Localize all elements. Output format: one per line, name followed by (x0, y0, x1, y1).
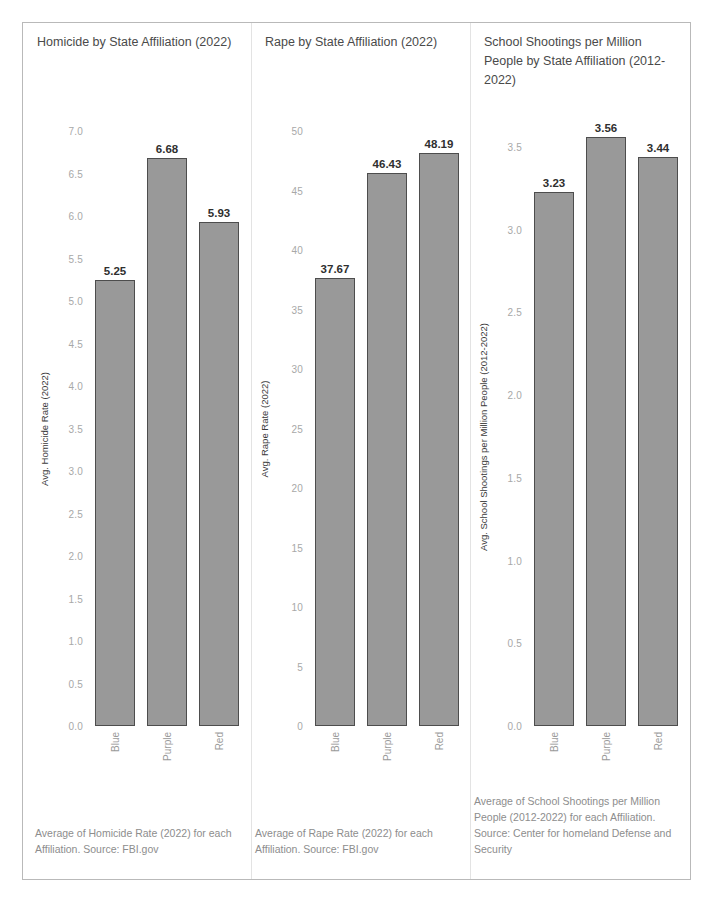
y-axis-title-homicide: Avg. Homicide Rate (2022) (35, 91, 53, 766)
y-tick-label: 1.5 (507, 472, 522, 483)
bar-group: 46.43Purple (367, 91, 407, 766)
y-tick-label: 40 (291, 245, 303, 256)
y-tick-label: 10 (291, 602, 303, 613)
footnote-school-shootings: Average of School Shootings per Million … (474, 793, 684, 857)
y-tick-label: 3.5 (68, 423, 83, 434)
footnote-homicide: Average of Homicide Rate (2022) for each… (35, 825, 241, 857)
x-category-label: Purple (387, 732, 416, 743)
y-axis-ticks-school-shootings: 0.00.51.01.52.02.53.03.5 (492, 107, 526, 766)
plot-area-homicide: Avg. Homicide Rate (2022) 0.00.51.01.52.… (35, 91, 247, 766)
x-category-label: Blue (335, 732, 355, 743)
bar-blue[interactable] (315, 278, 355, 726)
y-tick-label: 2.0 (68, 551, 83, 562)
x-category-label: Purple (606, 732, 635, 743)
y-tick-label: 35 (291, 304, 303, 315)
chart-title-rape: Rape by State Affiliation (2022) (265, 33, 465, 52)
y-tick-label: 4.5 (68, 338, 83, 349)
bar-red[interactable] (199, 222, 239, 726)
bar-red[interactable] (638, 157, 678, 726)
y-axis-title-text: Avg. School Shootings per Million People… (478, 323, 489, 551)
bar-group: 5.25Blue (95, 91, 135, 766)
chart-panel-rape: Rape by State Affiliation (2022) Avg. Ra… (251, 23, 470, 879)
footnote-rape: Average of Rape Rate (2022) for each Aff… (255, 825, 461, 857)
bar-blue[interactable] (534, 192, 574, 726)
x-category-label: Red (439, 732, 457, 743)
bar-value-label: 5.25 (104, 265, 126, 277)
y-tick-label: 45 (291, 185, 303, 196)
y-tick-label: 3.5 (507, 142, 522, 153)
bar-value-label: 37.67 (321, 263, 350, 275)
y-tick-label: 7.0 (68, 126, 83, 137)
y-tick-label: 0.0 (507, 721, 522, 732)
x-category-label: Blue (554, 732, 574, 743)
bar-group: 5.93Red (199, 91, 239, 766)
y-tick-label: 1.0 (507, 555, 522, 566)
chart-panel-school-shootings: School Shootings per Million People by S… (470, 23, 690, 879)
bar-group: 48.19Red (419, 91, 459, 766)
bar-group: 3.44Red (638, 107, 678, 766)
bars-homicide: 5.25Blue6.68Purple5.93Red (89, 91, 245, 766)
bar-value-label: 3.44 (647, 142, 669, 154)
y-tick-label: 3.0 (507, 224, 522, 235)
y-axis-title-text: Avg. Rape Rate (2022) (259, 380, 270, 477)
chart-title-homicide: Homicide by State Affiliation (2022) (37, 33, 237, 52)
y-tick-label: 50 (291, 126, 303, 137)
y-tick-label: 0.5 (68, 678, 83, 689)
y-tick-label: 0.5 (507, 638, 522, 649)
y-tick-label: 0 (297, 721, 303, 732)
bar-group: 37.67Blue (315, 91, 355, 766)
y-tick-label: 20 (291, 483, 303, 494)
bar-value-label: 6.68 (156, 143, 178, 155)
bars-rape: 37.67Blue46.43Purple48.19Red (309, 91, 465, 766)
bar-value-label: 48.19 (425, 138, 454, 150)
y-tick-label: 0.0 (68, 721, 83, 732)
bar-group: 3.56Purple (586, 107, 626, 766)
bar-purple[interactable] (367, 173, 407, 726)
y-tick-label: 25 (291, 423, 303, 434)
bars-school-shootings: 3.23Blue3.56Purple3.44Red (528, 107, 684, 766)
y-tick-label: 6.0 (68, 211, 83, 222)
y-axis-title-text: Avg. Homicide Rate (2022) (39, 372, 50, 486)
bar-group: 3.23Blue (534, 107, 574, 766)
y-tick-label: 30 (291, 364, 303, 375)
y-tick-label: 1.0 (68, 636, 83, 647)
y-tick-label: 6.5 (68, 168, 83, 179)
y-tick-label: 5 (297, 661, 303, 672)
y-tick-label: 3.0 (68, 466, 83, 477)
x-category-label: Red (219, 732, 237, 743)
y-tick-label: 2.5 (68, 508, 83, 519)
chart-title-school-shootings: School Shootings per Million People by S… (484, 33, 679, 90)
y-tick-label: 5.0 (68, 296, 83, 307)
x-category-label: Red (658, 732, 676, 743)
bar-value-label: 46.43 (373, 158, 402, 170)
y-axis-ticks-homicide: 0.00.51.01.52.02.53.03.54.04.55.05.56.06… (53, 91, 87, 766)
charts-dashboard: Homicide by State Affiliation (2022) Avg… (22, 22, 691, 880)
y-tick-label: 2.0 (507, 390, 522, 401)
chart-panel-homicide: Homicide by State Affiliation (2022) Avg… (23, 23, 251, 879)
x-category-label: Purple (167, 732, 196, 743)
y-axis-title-school-shootings: Avg. School Shootings per Million People… (474, 107, 492, 766)
y-tick-label: 2.5 (507, 307, 522, 318)
bar-value-label: 3.23 (543, 177, 565, 189)
plot-area-rape: Avg. Rape Rate (2022) 051015202530354045… (255, 91, 467, 766)
bar-purple[interactable] (147, 158, 187, 726)
y-tick-label: 15 (291, 542, 303, 553)
bar-purple[interactable] (586, 137, 626, 726)
y-axis-title-rape: Avg. Rape Rate (2022) (255, 91, 273, 766)
y-tick-label: 5.5 (68, 253, 83, 264)
y-axis-ticks-rape: 05101520253035404550 (273, 91, 307, 766)
x-category-label: Blue (115, 732, 135, 743)
bar-red[interactable] (419, 153, 459, 726)
y-tick-label: 4.0 (68, 381, 83, 392)
plot-area-school-shootings: Avg. School Shootings per Million People… (474, 107, 686, 766)
bar-blue[interactable] (95, 280, 135, 726)
y-tick-label: 1.5 (68, 593, 83, 604)
bar-value-label: 3.56 (595, 122, 617, 134)
bar-group: 6.68Purple (147, 91, 187, 766)
bar-value-label: 5.93 (208, 207, 230, 219)
